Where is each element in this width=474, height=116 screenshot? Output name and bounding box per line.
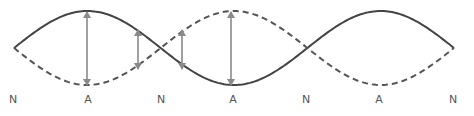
node-label: N bbox=[157, 93, 165, 107]
node-label: N bbox=[9, 93, 17, 107]
solid-wave-curve bbox=[14, 11, 454, 85]
dashed-wave-curve bbox=[14, 11, 454, 85]
antinode-label: A bbox=[375, 93, 383, 107]
antinode-label: A bbox=[229, 93, 237, 107]
node-label: N bbox=[302, 93, 310, 107]
antinode-label: A bbox=[84, 93, 92, 107]
node-label: N bbox=[449, 93, 457, 107]
